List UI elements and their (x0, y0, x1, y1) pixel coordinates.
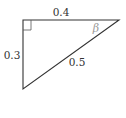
hypotenuse-label: 0.5 (69, 56, 86, 68)
right-angle-marker (23, 20, 31, 30)
angle-beta-label: β (92, 22, 99, 35)
triangle-diagram: 0.4 0.3 0.5 β (0, 0, 126, 118)
left-side-label: 0.3 (4, 49, 21, 61)
top-side-label: 0.4 (53, 6, 70, 18)
right-triangle (23, 20, 119, 89)
